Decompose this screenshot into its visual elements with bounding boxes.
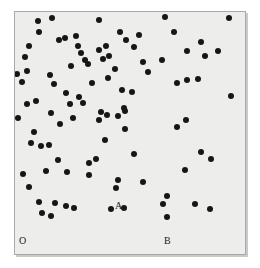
data-point	[145, 69, 151, 75]
frame-shadow-bottom	[16, 255, 248, 257]
data-point	[202, 53, 208, 59]
data-point	[162, 14, 168, 20]
data-point	[89, 80, 95, 86]
data-point	[55, 157, 61, 163]
data-point	[62, 35, 68, 41]
data-point	[14, 71, 20, 77]
data-point	[136, 32, 142, 38]
data-point	[15, 115, 21, 121]
data-point	[70, 115, 76, 121]
data-point	[39, 210, 45, 216]
data-point	[56, 37, 62, 43]
data-point	[49, 15, 55, 21]
data-point	[131, 151, 137, 157]
data-point	[198, 149, 204, 155]
data-point	[93, 156, 99, 162]
plot-surface: OAB	[15, 12, 245, 254]
data-point	[198, 39, 204, 45]
plot-frame: OAB	[14, 11, 246, 255]
data-point	[164, 214, 170, 220]
data-point	[48, 213, 54, 219]
data-point	[67, 101, 73, 107]
data-point	[51, 81, 57, 87]
data-point	[31, 129, 37, 135]
data-point	[24, 101, 30, 107]
data-point	[129, 89, 135, 95]
data-point	[102, 137, 108, 143]
data-point	[184, 77, 190, 83]
data-point	[96, 17, 102, 23]
data-point	[215, 48, 221, 54]
data-point	[63, 203, 69, 209]
data-point	[33, 98, 39, 104]
data-point	[119, 87, 125, 93]
data-point	[28, 140, 34, 146]
data-point	[38, 143, 44, 149]
data-point	[174, 80, 180, 86]
data-point	[115, 177, 121, 183]
data-point	[104, 112, 110, 118]
data-point	[159, 57, 165, 63]
data-point	[208, 156, 214, 162]
data-point	[106, 53, 112, 59]
data-point	[86, 160, 92, 166]
data-point	[228, 93, 234, 99]
data-point	[78, 50, 84, 56]
data-point	[68, 63, 74, 69]
data-point	[174, 124, 180, 130]
data-point	[164, 193, 170, 199]
data-point	[26, 43, 32, 49]
data-point	[171, 29, 177, 35]
data-point	[184, 48, 190, 54]
data-point	[85, 61, 91, 67]
data-point	[35, 18, 41, 24]
data-point	[63, 90, 69, 96]
data-point	[46, 142, 52, 148]
data-point	[121, 105, 127, 111]
data-point	[160, 201, 166, 207]
data-point	[131, 44, 137, 50]
data-point	[71, 205, 77, 211]
data-point	[123, 37, 129, 43]
data-point	[76, 94, 82, 100]
data-point	[113, 185, 119, 191]
data-point	[75, 43, 81, 49]
data-point	[20, 171, 26, 177]
data-point	[112, 66, 118, 72]
data-point	[19, 79, 25, 85]
data-point	[103, 43, 109, 49]
point-label-b: B	[164, 236, 171, 246]
data-point	[24, 68, 30, 74]
data-point	[115, 113, 121, 119]
data-point	[57, 121, 63, 127]
data-point	[43, 168, 49, 174]
data-point	[140, 59, 146, 65]
data-point	[36, 29, 42, 35]
data-point	[140, 179, 146, 185]
figure-root: OAB	[0, 0, 260, 268]
data-point	[52, 200, 58, 206]
point-label-a: A	[115, 201, 122, 211]
data-point	[26, 184, 32, 190]
data-point	[96, 117, 102, 123]
data-point	[86, 172, 92, 178]
data-point	[192, 201, 198, 207]
data-point	[122, 126, 128, 132]
frame-shadow-right	[246, 13, 248, 257]
data-point	[80, 100, 86, 106]
data-point	[108, 206, 114, 212]
data-point	[100, 56, 106, 62]
data-point	[36, 199, 42, 205]
data-point	[207, 206, 213, 212]
data-point	[48, 110, 54, 116]
data-point	[96, 47, 102, 53]
data-point	[183, 117, 189, 123]
data-point	[73, 33, 79, 39]
data-point	[117, 29, 123, 35]
data-point	[182, 167, 188, 173]
data-point	[195, 76, 201, 82]
data-point	[47, 72, 53, 78]
data-point	[64, 169, 70, 175]
data-point	[22, 54, 28, 60]
data-point	[226, 15, 232, 21]
